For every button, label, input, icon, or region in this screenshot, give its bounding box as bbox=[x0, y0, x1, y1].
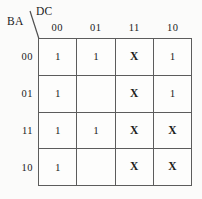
column-header-10: 10 bbox=[154, 20, 193, 36]
kmap-cell: X bbox=[116, 149, 154, 186]
kmap-cell: 1 bbox=[77, 39, 115, 76]
kmap-cell: 1 bbox=[39, 113, 77, 150]
kmap-cell: X bbox=[116, 113, 154, 150]
column-header-11: 11 bbox=[115, 20, 154, 36]
kmap-cell: 1 bbox=[39, 76, 77, 113]
row-header-10: 10 bbox=[6, 149, 36, 186]
kmap-grid: 1 1 X 1 1 X 1 1 1 X X 1 X X bbox=[38, 38, 192, 186]
karnaugh-map-figure: BA DC 00 01 11 10 00 01 11 10 1 1 X 1 1 … bbox=[0, 0, 202, 199]
row-header-00: 00 bbox=[6, 38, 36, 75]
column-header-01: 01 bbox=[77, 20, 116, 36]
kmap-cell: X bbox=[154, 149, 192, 186]
kmap-cell: 1 bbox=[39, 149, 77, 186]
kmap-cell: X bbox=[154, 113, 192, 150]
row-header-11: 11 bbox=[6, 112, 36, 149]
column-variable-label: DC bbox=[36, 6, 53, 18]
kmap-cell: X bbox=[116, 39, 154, 76]
kmap-cell: 1 bbox=[154, 39, 192, 76]
column-header-00: 00 bbox=[38, 20, 77, 36]
kmap-cell: 1 bbox=[77, 113, 115, 150]
kmap-cell bbox=[77, 76, 115, 113]
row-variable-label: BA bbox=[7, 16, 24, 28]
kmap-cell bbox=[77, 149, 115, 186]
row-header-01: 01 bbox=[6, 75, 36, 112]
row-header-column: 00 01 11 10 bbox=[6, 38, 36, 186]
column-header-row: 00 01 11 10 bbox=[38, 20, 192, 36]
kmap-cell: 1 bbox=[39, 39, 77, 76]
kmap-cell: X bbox=[116, 76, 154, 113]
kmap-cell: 1 bbox=[154, 76, 192, 113]
